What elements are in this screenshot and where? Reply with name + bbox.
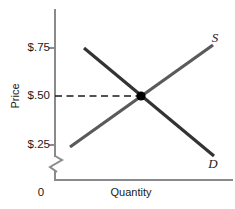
y-tick-label-mid: $.50 [28, 89, 50, 101]
chart-canvas: $.75 $.50 $.25 0 Price Quantity S D [0, 0, 235, 209]
y-tick-label-low: $.25 [28, 138, 50, 150]
x-axis-title: Quantity [111, 186, 152, 198]
supply-demand-chart: $.75 $.50 $.25 0 Price Quantity S D [0, 0, 235, 209]
y-axis-title: Price [9, 83, 21, 108]
origin-label: 0 [38, 186, 44, 198]
y-tick-label-top: $.75 [28, 41, 50, 53]
equilibrium-point-dot [136, 91, 145, 100]
chart-background [0, 0, 235, 209]
supply-curve-label: S [212, 30, 219, 45]
demand-curve-label: D [207, 156, 218, 171]
